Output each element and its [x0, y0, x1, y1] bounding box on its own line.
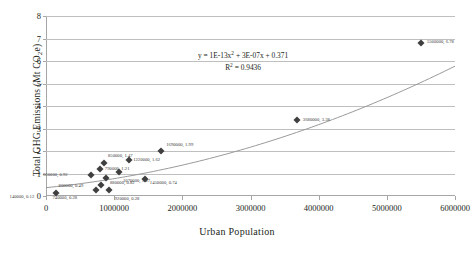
y-axis-title-subscript: 2: [36, 51, 44, 55]
gridline: [46, 16, 455, 17]
gridline: [46, 106, 455, 107]
x-tick-mark: [455, 196, 456, 200]
y-tick-label: 7: [37, 34, 41, 44]
trendline-equation: y = 1E-13x2 + 3E-07x + 0.371: [198, 50, 288, 62]
equation-prefix: y = 1E-13x: [198, 51, 231, 60]
y-tick-label: 2: [37, 146, 41, 156]
x-tick-label: 1000000: [99, 203, 129, 213]
data-point-label: 1220000, 1.62: [133, 156, 160, 161]
r-squared-value: R2 = 0.9436: [198, 62, 288, 74]
y-tick-label: 1: [37, 169, 41, 179]
gridline: [46, 129, 455, 130]
data-point-label: 740000, 0.28: [52, 194, 77, 199]
gridline: [46, 39, 455, 40]
x-tick-mark: [46, 196, 47, 200]
y-tick-label: 8: [37, 11, 41, 21]
data-point-label: 660000, 0.92: [43, 172, 68, 177]
x-tick-label: 0: [44, 203, 48, 213]
gridline: [46, 84, 455, 85]
data-point-label: 5500000, 6.78: [427, 39, 454, 44]
x-tick-label: 2000000: [167, 203, 197, 213]
plot-area: 012345678 010000002000000300000040000005…: [46, 16, 455, 196]
trendline-equation-annotation: y = 1E-13x2 + 3E-07x + 0.371 R2 = 0.9436: [198, 50, 288, 74]
data-point-label: 1690000, 1.99: [166, 142, 193, 147]
data-point-label: 140000, 0.12: [10, 194, 35, 199]
y-axis-title-text: Total GHG Emissions (Mt CO: [32, 55, 42, 176]
y-tick-label: 4: [37, 101, 41, 111]
y-tick-mark: [43, 61, 46, 62]
x-axis-title: Urban Population: [0, 226, 474, 237]
x-tick-mark: [251, 196, 252, 200]
data-point-label: 920000, 0.28: [115, 195, 140, 200]
y-tick-mark: [43, 151, 46, 152]
x-tick-label: 6000000: [440, 203, 470, 213]
y-tick-mark: [43, 84, 46, 85]
data-point-label: 800000, 0.49: [59, 182, 84, 187]
x-tick-mark: [182, 196, 183, 200]
x-tick-mark: [387, 196, 388, 200]
y-tick-label: 6: [37, 56, 41, 66]
equation-suffix: + 3E-07x + 0.371: [234, 51, 288, 60]
y-tick-label: 3: [37, 124, 41, 134]
r-squared-suffix: = 0.9436: [233, 64, 261, 73]
x-tick-label: 3000000: [236, 203, 266, 213]
y-tick-mark: [43, 16, 46, 17]
scatter-chart: Total GHG Emissions (Mt CO2e) 012345678 …: [0, 0, 474, 256]
y-tick-label: 5: [37, 79, 41, 89]
gridline: [46, 174, 455, 175]
x-tick-label: 5000000: [372, 203, 402, 213]
y-tick-mark: [43, 106, 46, 107]
y-tick-mark: [43, 129, 46, 130]
y-tick-label: 0: [37, 191, 41, 201]
x-tick-mark: [319, 196, 320, 200]
x-tick-label: 4000000: [304, 203, 334, 213]
y-tick-mark: [43, 39, 46, 40]
data-point-label: 1450000, 0.74: [150, 180, 177, 185]
data-point-label: 3680000, 3.38: [303, 116, 330, 121]
